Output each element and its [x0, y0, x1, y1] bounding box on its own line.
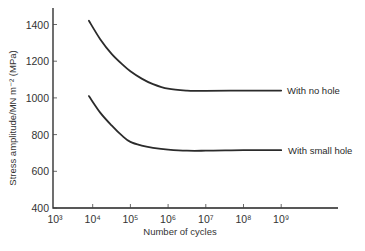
- y-tick-label: 1000: [26, 92, 50, 104]
- curve-small-hole: [89, 96, 281, 151]
- y-tick-label: 600: [31, 165, 49, 177]
- x-tick-label: 10⁵: [122, 213, 138, 225]
- x-axis-title: Number of cycles: [143, 226, 217, 237]
- x-tick-label: 10⁸: [235, 213, 251, 225]
- y-tick-label: 800: [31, 129, 49, 141]
- x-tick-label: 10³: [47, 213, 63, 225]
- x-tick-label: 10⁷: [198, 213, 214, 225]
- y-axis: 400600800100012001400: [26, 8, 338, 214]
- y-axis-title: Stress amplitude/MN m⁻² (MPa): [7, 50, 18, 185]
- x-tick-label: 10⁴: [85, 213, 101, 225]
- fatigue-chart: 400600800100012001400 10³10⁴10⁵10⁶10⁷10⁸…: [0, 0, 365, 251]
- x-tick-label: 10⁹: [273, 213, 289, 225]
- legend-label-small-hole: With small hole: [288, 145, 352, 156]
- axis-lines: [53, 8, 338, 208]
- curves: [89, 21, 281, 151]
- x-tick-label: 10⁶: [160, 213, 176, 225]
- y-tick-label: 1400: [26, 19, 50, 31]
- curve-no-hole: [89, 21, 281, 91]
- legend-label-no-hole: With no hole: [287, 85, 340, 96]
- x-axis: 10³10⁴10⁵10⁶10⁷10⁸10⁹: [47, 204, 289, 225]
- y-tick-label: 1200: [26, 55, 50, 67]
